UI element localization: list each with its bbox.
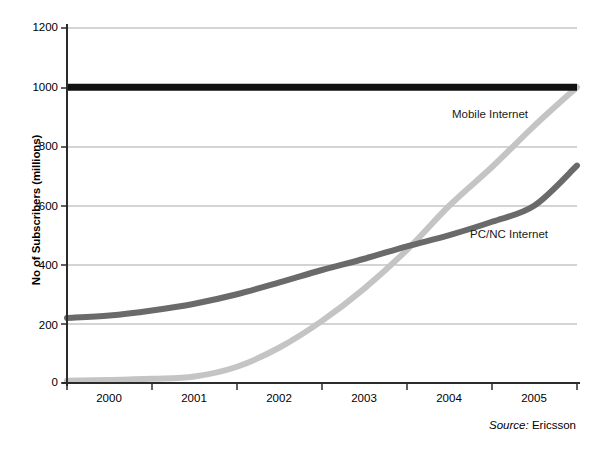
y-tick-label-1200: 1200 — [18, 22, 58, 34]
chart-container: No of Subscribers (millions) 1200 1000 8… — [0, 0, 595, 452]
x-tick-label-2002: 2002 — [234, 392, 324, 404]
x-tick-label-2004: 2004 — [404, 392, 494, 404]
series-label-pcnc-internet: PC/NC Internet — [470, 228, 548, 240]
gridline-group — [67, 28, 577, 324]
x-tick-label-2003: 2003 — [319, 392, 409, 404]
source-prefix: Source: — [489, 419, 529, 431]
y-tick-label-400: 400 — [18, 260, 58, 272]
y-tick-label-800: 800 — [18, 141, 58, 153]
x-tick-label-2000: 2000 — [64, 392, 154, 404]
y-tick-label-200: 200 — [18, 320, 58, 332]
series-line-pcnc-internet — [67, 166, 577, 318]
x-tick-marks — [67, 383, 577, 390]
x-tick-label-2005: 2005 — [489, 392, 579, 404]
source-name: Ericsson — [532, 419, 576, 431]
x-tick-label-2001: 2001 — [149, 392, 239, 404]
y-axis-tick-label-group: 1200 1000 800 600 400 200 0 — [14, 0, 58, 452]
source-note: Source: Ericsson — [489, 419, 576, 432]
series-label-mobile-internet: Mobile Internet — [452, 108, 528, 120]
y-tick-label-0: 0 — [18, 377, 58, 389]
plot-area — [0, 0, 595, 452]
y-tick-label-600: 600 — [18, 201, 58, 213]
axis-lines — [62, 24, 580, 386]
y-tick-label-1000: 1000 — [18, 82, 58, 94]
